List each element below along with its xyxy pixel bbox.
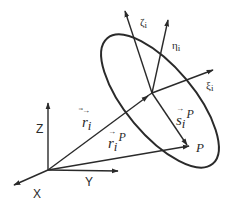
- y-axis-label: Y: [85, 176, 93, 188]
- xi-axis-label: ξi: [206, 80, 213, 91]
- eta-axis-label: ηi: [172, 40, 180, 51]
- vector-r-i-extension: [146, 93, 152, 97]
- diagram-canvas: Z Y X ζi ηi ξi ⃗→ri →riP →siP P: [0, 0, 227, 206]
- point-p-label: P: [196, 141, 204, 154]
- vector-r-i-label: ⃗→ri: [82, 115, 91, 130]
- x-axis-label: X: [33, 188, 41, 200]
- vector-s-i-p-label: →siP: [176, 113, 193, 128]
- y-axis: [48, 170, 118, 171]
- eta-axis: [152, 20, 168, 93]
- vector-r-i: [48, 96, 148, 170]
- vector-r-i-p-label: →riP: [108, 136, 125, 151]
- z-axis-label: Z: [36, 123, 43, 135]
- diagram-graphics: [0, 0, 227, 206]
- zeta-axis: [125, 11, 152, 93]
- zeta-axis-label: ζi: [140, 17, 147, 28]
- x-axis: [14, 170, 48, 185]
- xi-axis: [152, 70, 213, 93]
